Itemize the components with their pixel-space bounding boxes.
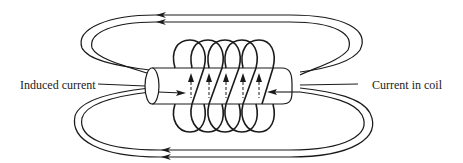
cylinder <box>145 68 292 104</box>
coil-current-leader <box>300 84 358 85</box>
top-field-loop-outer <box>155 15 362 72</box>
induced-current-label: Induced current <box>20 78 96 93</box>
current-in-coil-label: Current in coil <box>372 78 442 93</box>
top-field-loop-inner <box>155 22 349 75</box>
cylinder-end-ellipse <box>145 68 159 104</box>
induced-current-leader <box>98 84 145 86</box>
top-field-lines <box>81 12 362 75</box>
